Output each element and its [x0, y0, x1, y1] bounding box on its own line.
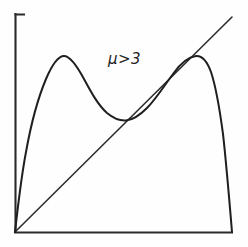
mu-greater-than-three-label: μ>3	[107, 50, 141, 68]
logistic-second-iterate-figure: μ>3	[0, 0, 248, 247]
figure-root: μ>3	[0, 0, 248, 247]
second-iterate-curve	[15, 56, 232, 232]
